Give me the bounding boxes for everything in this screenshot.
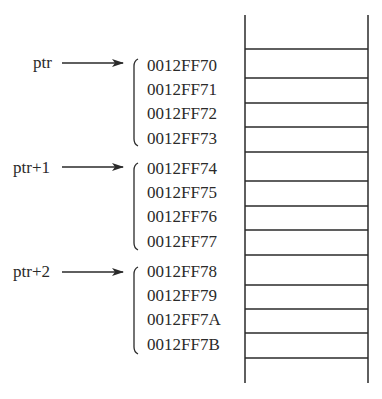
address-label: 0012FF74 <box>147 159 217 178</box>
address-label: 0012FF70 <box>147 56 217 75</box>
pointer-label: ptr+1 <box>13 158 50 177</box>
address-label: 0012FF76 <box>147 207 217 226</box>
pointer-memory-diagram: ptr 0012FF70 0012FF71 0012FF72 0012FF73 … <box>0 0 382 399</box>
brace-icon <box>134 59 138 146</box>
brace-icon <box>134 163 138 250</box>
pointer-group-ptr-plus-2: ptr+2 0012FF78 0012FF79 0012FF7A 0012FF7… <box>13 262 221 354</box>
address-label: 0012FF77 <box>147 232 217 251</box>
brace-icon <box>134 267 138 354</box>
address-label: 0012FF7B <box>147 335 220 354</box>
pointer-label: ptr+2 <box>13 262 50 281</box>
address-label: 0012FF75 <box>147 183 217 202</box>
address-label: 0012FF7A <box>147 310 221 329</box>
address-label: 0012FF79 <box>147 286 217 305</box>
memory-cell-dividers <box>245 49 368 358</box>
pointer-label: ptr <box>33 53 52 72</box>
address-label: 0012FF72 <box>147 104 217 123</box>
pointer-group-ptr: ptr 0012FF70 0012FF71 0012FF72 0012FF73 <box>33 53 217 148</box>
address-label: 0012FF73 <box>147 129 217 148</box>
address-label: 0012FF71 <box>147 80 217 99</box>
address-label: 0012FF78 <box>147 262 217 281</box>
memory-column <box>245 15 368 383</box>
pointer-group-ptr-plus-1: ptr+1 0012FF74 0012FF75 0012FF76 0012FF7… <box>13 158 217 251</box>
